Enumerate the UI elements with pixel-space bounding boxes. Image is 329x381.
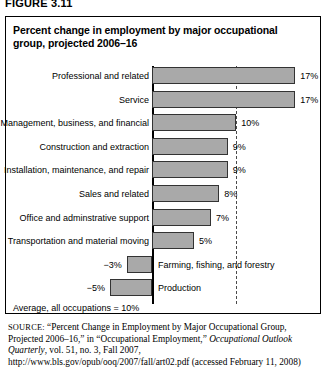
source-text-part2: , vol. 51, no. 3, Fall 2007, http://www.… [8, 345, 301, 367]
category-label: Office and adminstrative support [20, 212, 149, 225]
value-label: 10% [241, 117, 259, 130]
value-label: 9% [233, 141, 246, 154]
source-note: SOURCE: “Percent Change in Employment by… [8, 322, 323, 368]
category-label: Sales and related [79, 188, 149, 201]
value-label: 17% [300, 94, 318, 107]
bar [152, 138, 228, 155]
category-label: Installation, maintenance, and repair [4, 164, 149, 177]
average-note: Average, all occupations = 10% [13, 303, 139, 313]
chart-title: Percent change in employment by major oc… [13, 24, 311, 50]
category-label: Service [119, 94, 149, 107]
category-label: Production [158, 282, 201, 295]
value-label: −3% [103, 259, 121, 272]
category-label: Farming, fishing, and forestry [158, 259, 275, 272]
bar [152, 91, 295, 108]
category-label: Professional and related [52, 70, 149, 83]
value-label: 5% [199, 235, 212, 248]
category-label: Transportation and material moving [8, 235, 149, 248]
bar [152, 161, 228, 178]
value-label: 17% [300, 70, 318, 83]
bar-row: Management, business, and financial10% [5, 113, 321, 133]
bar-row: Office and adminstrative support7% [5, 208, 321, 228]
bar [152, 67, 295, 84]
value-label: −5% [87, 282, 105, 295]
bar-row: Construction and extraction9% [5, 137, 321, 157]
bar-row: Transportation and material moving5% [5, 231, 321, 251]
bar-row: −5%Production [5, 278, 321, 298]
bar [152, 232, 194, 249]
bar-chart-plot: Professional and related17%Service17%Man… [5, 62, 321, 310]
value-label: 7% [216, 212, 229, 225]
figure-label: FIGURE 3.11 [5, 0, 73, 9]
bar [110, 279, 152, 296]
value-label: 8% [224, 188, 237, 201]
category-label: Construction and extraction [39, 141, 149, 154]
bar [152, 209, 211, 226]
bar-row: Service17% [5, 90, 321, 110]
bar [152, 114, 236, 131]
source-prefix: SOURCE: [8, 323, 45, 332]
category-label: Management, business, and financial [0, 117, 149, 130]
bar-row: −3%Farming, fishing, and forestry [5, 255, 321, 275]
bar-row: Sales and related8% [5, 184, 321, 204]
bar [127, 256, 152, 273]
bar [152, 185, 219, 202]
bar-row: Installation, maintenance, and repair9% [5, 160, 321, 180]
bar-row: Professional and related17% [5, 66, 321, 86]
value-label: 9% [233, 164, 246, 177]
